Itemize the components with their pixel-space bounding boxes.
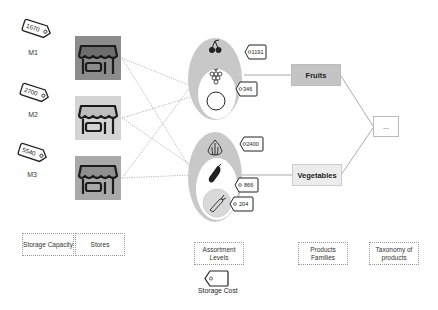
- family-fruits[interactable]: Fruits: [291, 64, 341, 86]
- capacity-tag-m2: 2700: [20, 83, 50, 103]
- capacity-tag-m1: 1670: [22, 19, 52, 39]
- legend-stores: Stores: [75, 233, 125, 256]
- cost-value: 204: [239, 201, 248, 207]
- legend-assortment-levels: Assortment Levels: [194, 242, 244, 265]
- apple-icon: [207, 92, 225, 110]
- cost-tag-vegetables-inner: 866: [235, 178, 258, 192]
- storage-cost-legend-icon: [205, 271, 228, 286]
- legend-storage-capacity: Storage Capacity: [22, 233, 74, 256]
- store-m2[interactable]: [75, 96, 121, 140]
- cost-value: 866: [244, 182, 253, 188]
- cost-tag-fruits-inner: 346: [236, 82, 257, 96]
- cost-tag-vegetables-innermost: 204: [230, 197, 253, 211]
- store-label-m2: M2: [23, 111, 43, 118]
- legend-storage-cost: Storage Cost: [198, 287, 238, 294]
- capacity-tag-m3: 5540: [18, 143, 48, 163]
- store-label-m3: M3: [22, 171, 42, 178]
- assortment-diagram: 1670 2700 5540 1191 346 2400: [0, 0, 438, 310]
- store-m3[interactable]: [75, 156, 121, 200]
- store-icon: [75, 36, 121, 80]
- store-icon: [75, 156, 121, 200]
- taxonomy-node[interactable]: ...: [373, 116, 399, 137]
- legend-product-families: Products Families: [298, 242, 348, 265]
- vegetables-innermost-level: [203, 189, 231, 217]
- family-vegetables[interactable]: Vegetables: [292, 164, 342, 186]
- family-connectors: [242, 75, 373, 175]
- cost-value: 2400: [247, 141, 259, 147]
- cost-tag-vegetables-outer: 2400: [240, 137, 263, 151]
- cost-value: 346: [243, 86, 252, 92]
- cost-value: 1191: [252, 49, 264, 55]
- legend-taxonomy: Taxonomy of products: [369, 242, 419, 265]
- fruits-assortment: [188, 38, 242, 120]
- store-label-m1: M1: [23, 49, 43, 56]
- store-m1[interactable]: [75, 36, 121, 80]
- cost-tag-fruits-outer: 1191: [245, 45, 266, 59]
- store-icon: [75, 96, 121, 140]
